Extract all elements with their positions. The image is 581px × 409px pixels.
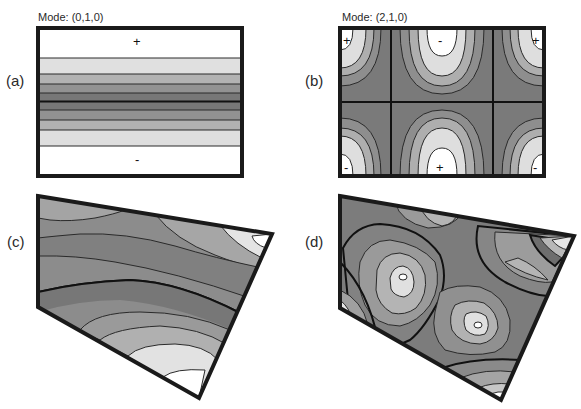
panel-d-plot [330, 190, 580, 405]
sign-plus: + [343, 33, 351, 48]
sign-minus: - [533, 160, 537, 175]
sign-plus: + [436, 160, 444, 175]
sign-minus: - [135, 152, 139, 167]
panel-a-plot: + - [38, 28, 242, 176]
sign-plus: + [532, 33, 540, 48]
sign-plus: + [133, 34, 141, 49]
panel-b-plot: + - + - + - [340, 28, 544, 176]
sign-minus: - [438, 33, 442, 48]
sign-minus: - [344, 160, 348, 175]
panel-c-plot [30, 190, 280, 405]
figure-canvas: + - [0, 0, 581, 409]
